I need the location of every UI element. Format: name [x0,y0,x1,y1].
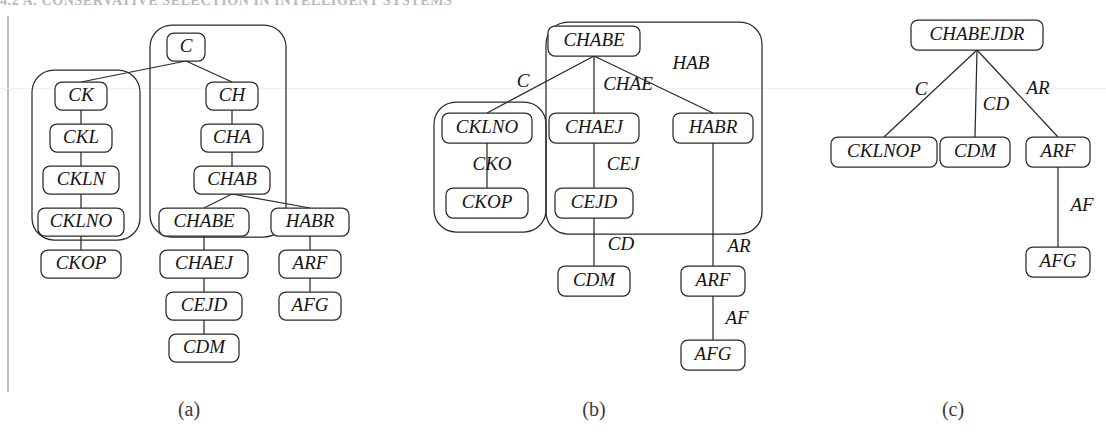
edge-line [975,50,977,137]
node-label: CKOP [56,252,107,273]
node-label: ARF [291,252,328,273]
edge-label: CEJ [607,153,641,174]
figure-svg: CCKCHCKLCHACKLNCHABCKLNOCHABEHABRCKOPCHA… [0,0,1106,438]
graph-node[interactable]: CEJD [555,188,633,218]
figure-caption-a: (a) [178,398,200,421]
node-label: CEJD [181,294,228,315]
graph-node[interactable]: ARF [681,266,745,296]
graph-node[interactable]: CKOP [41,250,121,278]
graph-node[interactable]: CHAEJ [160,250,248,278]
node-label: CDM [954,140,997,161]
graph-node[interactable]: CKL [50,124,112,152]
graph-node[interactable]: CH [206,82,258,110]
graph-node[interactable]: CDM [169,334,239,362]
node-label: CEJD [571,191,618,212]
node-label: CKOP [462,191,513,212]
node-label: CK [68,84,95,105]
graph-node[interactable]: C [167,33,205,61]
graph-node[interactable]: CKLNO [442,113,532,143]
graph-node[interactable]: CHAEJ [549,113,639,143]
graph-node[interactable]: ARF [279,250,341,278]
node-label: CDM [183,336,226,357]
node-label: CKLN [57,168,107,189]
edge-line [186,61,232,82]
node-label: CHA [213,126,251,147]
node-label: CKLNO [456,116,519,137]
node-label: CHABE [173,210,235,231]
node-label: CHABE [563,29,625,50]
figure-caption-c: (c) [942,398,964,421]
edge-line [487,56,594,113]
edge-line [204,194,232,208]
graph-node[interactable]: AFG [279,292,341,320]
figure-canvas: CCKCHCKLCHACKLNCHABCKLNOCHABEHABRCKOPCHA… [0,0,1106,438]
captions-layer: (a)(b)(c) [178,398,964,421]
node-label: CKLNO [50,210,113,231]
graph-node[interactable]: AFG [1026,247,1090,277]
edge-line [884,50,977,137]
edge-label: HAB [672,52,710,73]
node-label: HABR [688,116,738,137]
edge-label: AR [1024,77,1050,98]
graph-node[interactable]: ARF [1026,137,1090,167]
node-label: CKLNOP [847,140,921,161]
node-label: CHABEJDR [930,23,1025,44]
figure-caption-b: (b) [582,398,605,421]
edge-label: AF [1068,194,1094,215]
node-label: ARF [694,269,731,290]
node-label: C [180,35,193,56]
node-label: AFG [693,343,732,364]
edge-label: AF [723,307,749,328]
graph-node[interactable]: CHABE [548,26,640,56]
edge-label: CD [983,93,1010,114]
node-label: ARF [1039,140,1076,161]
node-label: AFG [1038,250,1077,271]
graph-node[interactable]: CK [55,82,107,110]
node-label: AFG [290,294,329,315]
edge-label: C [517,70,530,91]
group-boxes-layer [32,22,762,240]
graph-node[interactable]: CHAB [194,166,270,194]
edge-label: CKO [472,153,511,174]
edge-label: C [915,78,928,99]
node-label: HABR [285,210,335,231]
graph-node[interactable]: CDM [940,137,1010,167]
graph-node[interactable]: CDM [558,266,630,296]
graph-node[interactable]: CHA [201,124,263,152]
node-label: CKL [63,126,99,147]
edge-label: CHAE [603,73,653,94]
edge-label: CD [608,233,635,254]
graph-node[interactable]: CHABE [159,208,249,236]
graph-node[interactable]: AFG [681,340,745,370]
graph-node[interactable]: CKLNOP [831,137,937,167]
graph-node[interactable]: CHABEJDR [911,20,1043,50]
edge-line [81,61,186,82]
node-label: CDM [573,269,616,290]
node-label: CHAEJ [565,116,625,137]
node-label: CH [219,84,247,105]
graph-node[interactable]: CKLN [43,166,119,194]
graph-node[interactable]: HABR [673,113,753,143]
node-label: CHAB [207,168,257,189]
node-label: CHAEJ [175,252,235,273]
edge-line [232,194,310,208]
graph-node[interactable]: CEJD [166,292,242,320]
graph-node[interactable]: CKOP [446,188,528,218]
graph-node[interactable]: HABR [271,208,349,236]
edge-label: AR [725,235,751,256]
graph-node[interactable]: CKLNO [38,208,124,236]
